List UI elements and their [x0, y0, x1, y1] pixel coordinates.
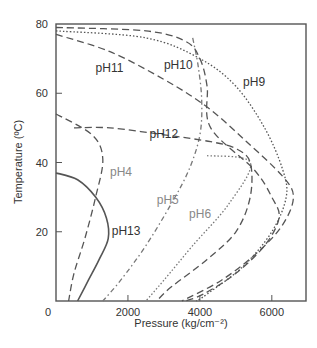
axis-ticks: 020004000600020406080 [36, 18, 284, 318]
label-ph11: pH11 [96, 61, 124, 75]
y-tick-label: 60 [36, 87, 48, 99]
curve-ph13 [56, 173, 109, 301]
curve-ph12 [74, 127, 252, 301]
label-ph9: pH9 [243, 75, 265, 89]
phase-diagram-chart: pH11pH10pH9pH12pH4pH5pH6pH13 02000400060… [0, 0, 317, 348]
label-ph13: pH13 [112, 224, 141, 238]
curve-labels: pH11pH10pH9pH12pH4pH5pH6pH13 [96, 58, 266, 238]
x-tick-label: 0 [45, 306, 51, 318]
x-axis-title: Pressure (kg/cm⁻²) [134, 317, 227, 329]
y-tick-label: 80 [36, 18, 48, 30]
curve-ph4 [56, 114, 103, 301]
y-tick-label: 20 [36, 226, 48, 238]
label-ph10: pH10 [164, 58, 193, 72]
label-ph4: pH4 [110, 165, 132, 179]
y-axis-title: Temperature (ºC) [12, 120, 24, 204]
label-ph12: pH12 [150, 127, 179, 141]
label-ph5: pH5 [157, 193, 179, 207]
curve-ph6 [146, 156, 251, 301]
x-tick-label: 6000 [260, 306, 284, 318]
y-tick-label: 40 [36, 157, 48, 169]
label-ph6: pH6 [189, 207, 211, 221]
